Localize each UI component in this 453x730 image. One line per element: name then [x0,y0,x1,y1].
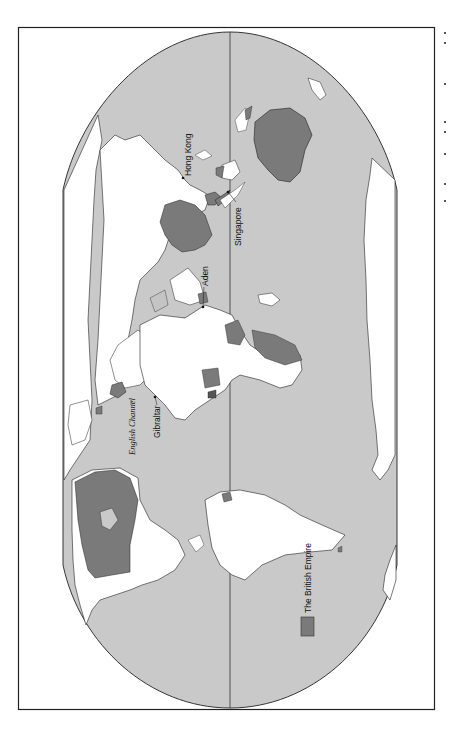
page-edge-marks [443,25,449,225]
british-guiana [222,492,232,502]
british-empire-map: Hong Kong Singapore Aden Gibraltar Engli… [0,0,453,730]
aden-label: Aden [200,266,210,286]
map-canvas: Hong Kong Singapore Aden Gibraltar Engli… [0,0,453,730]
label-english-channel: English Channel [127,397,137,456]
gibraltar-label: Gibraltar [152,405,162,438]
hong-kong-marker [182,177,185,180]
label-hong-kong: Hong Kong [182,133,193,179]
nigeria [202,368,220,388]
english-channel-label: English Channel [127,397,137,456]
legend-label: The British Empire [303,543,313,613]
singapore-label: Singapore [233,207,243,246]
legend-swatch [301,617,314,636]
legend: The British Empire [301,543,314,636]
hong-kong-label: Hong Kong [183,133,193,176]
